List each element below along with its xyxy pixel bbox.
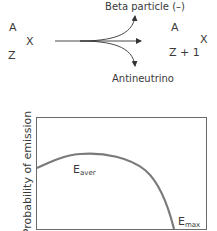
parent-nucleus: A X Z bbox=[8, 21, 34, 62]
e-aver-label: Eaver bbox=[73, 163, 96, 177]
daughter-mass-number: A bbox=[171, 21, 179, 34]
daughter-symbol: X bbox=[200, 33, 208, 46]
e-max-main: E bbox=[178, 215, 185, 228]
antineutrino-label: Antineutrino bbox=[112, 73, 174, 84]
beta-decay-diagram: A X Z Beta particle (–) Antineutrino A X… bbox=[0, 0, 217, 231]
e-max-subscript: max bbox=[185, 221, 200, 229]
energy-spectrum-graph: Probability of emission Eaver Emax bbox=[21, 111, 207, 231]
e-aver-main: E bbox=[73, 163, 80, 176]
energy-spectrum-curve bbox=[37, 154, 174, 229]
graph-frame bbox=[37, 118, 207, 230]
e-aver-subscript: aver bbox=[80, 169, 96, 177]
parent-mass-number: A bbox=[9, 21, 17, 34]
daughter-atomic-number: Z + 1 bbox=[169, 46, 200, 59]
decay-arrows bbox=[55, 16, 141, 66]
parent-atomic-number: Z bbox=[8, 49, 16, 62]
parent-symbol: X bbox=[26, 35, 34, 48]
e-max-label: Emax bbox=[178, 215, 200, 229]
beta-particle-label: Beta particle (–) bbox=[105, 1, 185, 12]
beta-branch-arrow bbox=[80, 16, 135, 41]
daughter-nucleus: A X Z + 1 bbox=[169, 21, 208, 59]
antineutrino-branch-arrow bbox=[80, 41, 135, 66]
y-axis-label: Probability of emission bbox=[21, 111, 34, 231]
